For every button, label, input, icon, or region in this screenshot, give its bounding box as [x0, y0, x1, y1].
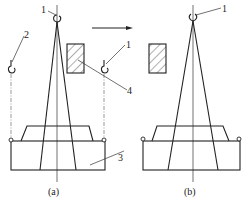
base-body-a — [11, 141, 105, 170]
label-1-a: 1 — [41, 4, 46, 15]
hook-icon — [101, 60, 108, 73]
hoisting-diagram: 1 2 1 4 3 (a) 1 — [0, 0, 247, 207]
caption-b: (b) — [184, 186, 196, 198]
panel-b: 1 (b) — [141, 3, 241, 198]
label-2: 2 — [24, 29, 29, 40]
label-3: 3 — [118, 152, 123, 163]
base-top-b — [152, 126, 229, 141]
caption-a: (a) — [48, 186, 59, 198]
obstacle-box-b — [149, 44, 166, 73]
label-1-b: 1 — [222, 3, 227, 14]
sling-right-b — [193, 21, 218, 170]
label-4: 4 — [127, 85, 132, 96]
sling-left-a — [40, 22, 57, 170]
hook-icon — [8, 60, 15, 73]
obstacle-box-a — [67, 44, 84, 73]
label-1-right: 1 — [126, 39, 131, 50]
arrow-right-icon — [126, 26, 133, 30]
sling-left-b — [168, 21, 193, 170]
panel-a: 1 2 1 4 3 (a) — [8, 4, 132, 198]
base-body-b — [143, 141, 240, 170]
move-arrow — [92, 26, 133, 30]
